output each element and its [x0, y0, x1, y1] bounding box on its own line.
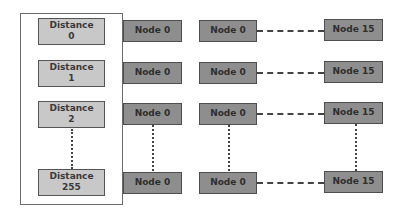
dashed-connector: [257, 72, 324, 74]
node-box: Node 0: [199, 103, 257, 125]
ellipsis-dots-col2: [228, 125, 230, 171]
distance-box-0: Distance 0: [38, 18, 105, 45]
dashed-connector: [257, 113, 324, 115]
dashed-connector: [257, 30, 324, 32]
distance-value: 0: [39, 31, 104, 42]
distance-title: Distance: [39, 103, 104, 114]
node-box: Node 0: [123, 20, 182, 42]
distance-box-255: Distance 255: [38, 169, 105, 196]
ellipsis-dots-distance: [71, 129, 73, 169]
node-box: Node 0: [123, 103, 182, 125]
ellipsis-dots-col3: [355, 124, 357, 171]
node-box: Node 15: [324, 102, 383, 124]
node-box: Node 0: [123, 172, 182, 194]
distance-box-1: Distance 1: [38, 60, 105, 87]
distance-title: Distance: [39, 171, 104, 182]
node-box: Node 0: [199, 20, 257, 42]
node-box: Node 0: [199, 172, 257, 194]
node-box: Node 0: [199, 62, 257, 84]
ellipsis-dots-col1: [152, 125, 154, 171]
distance-value: 1: [39, 73, 104, 84]
distance-title: Distance: [39, 62, 104, 73]
distance-value: 255: [39, 182, 104, 193]
node-box: Node 15: [324, 61, 383, 83]
dashed-connector: [257, 182, 324, 184]
distance-title: Distance: [39, 20, 104, 31]
node-box: Node 15: [324, 171, 383, 193]
distance-box-2: Distance 2: [38, 101, 105, 128]
distance-value: 2: [39, 114, 104, 125]
node-box: Node 15: [324, 19, 383, 41]
node-box: Node 0: [123, 62, 182, 84]
